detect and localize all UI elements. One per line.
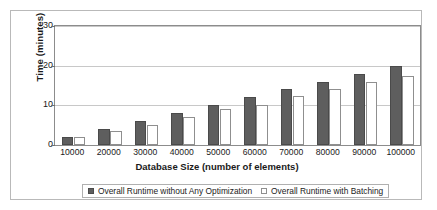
bar: [317, 82, 329, 145]
bar-group: [92, 26, 129, 145]
bar: [244, 97, 256, 145]
bar: [171, 113, 183, 145]
bar: [74, 137, 86, 145]
legend-label: Overall Runtime without Any Optimization: [98, 187, 252, 196]
bar: [220, 109, 232, 145]
y-tick-label: 30: [33, 21, 53, 30]
bar: [183, 117, 195, 145]
bar-group: [347, 26, 384, 145]
y-tick-label: 20: [33, 61, 53, 70]
plot-area: [54, 25, 421, 146]
chart-figure: Time (minutes) 0102030 10000200003000040…: [10, 10, 422, 200]
y-axis-tick-labels: 0102030: [27, 11, 53, 201]
bar: [98, 129, 110, 145]
bar: [208, 105, 220, 145]
bar-group: [311, 26, 348, 145]
bars-layer: [55, 26, 420, 145]
y-tick-label: 10: [33, 100, 53, 109]
x-axis-title: Database Size (number of elements): [11, 161, 423, 172]
bar: [402, 76, 414, 145]
x-axis-tick-labels: 1000020000300004000050000600007000080000…: [54, 147, 421, 161]
bar-group: [384, 26, 421, 145]
bar-group: [55, 26, 92, 145]
bar: [135, 121, 147, 145]
filled-dark-swatch: [88, 188, 94, 194]
y-tickmark: [51, 145, 55, 146]
bar: [62, 137, 74, 145]
bar: [147, 125, 159, 145]
bar: [293, 96, 305, 145]
bar-group: [201, 26, 238, 145]
bar: [256, 105, 268, 145]
bar: [354, 74, 366, 145]
x-tick-label: 100000: [376, 147, 426, 157]
bar: [366, 82, 378, 145]
bar: [110, 131, 122, 145]
legend-label: Overall Runtime with Batching: [271, 187, 383, 196]
bar-group: [274, 26, 311, 145]
legend-entry: Overall Runtime without Any Optimization: [88, 187, 252, 196]
bar-group: [165, 26, 202, 145]
chart-legend: Overall Runtime without Any Optimization…: [82, 184, 389, 198]
bar: [390, 66, 402, 145]
bar: [281, 89, 293, 145]
outline-light-swatch: [261, 188, 267, 194]
legend-entry: Overall Runtime with Batching: [261, 187, 383, 196]
bar-group: [238, 26, 275, 145]
bar: [329, 89, 341, 145]
bar-group: [128, 26, 165, 145]
